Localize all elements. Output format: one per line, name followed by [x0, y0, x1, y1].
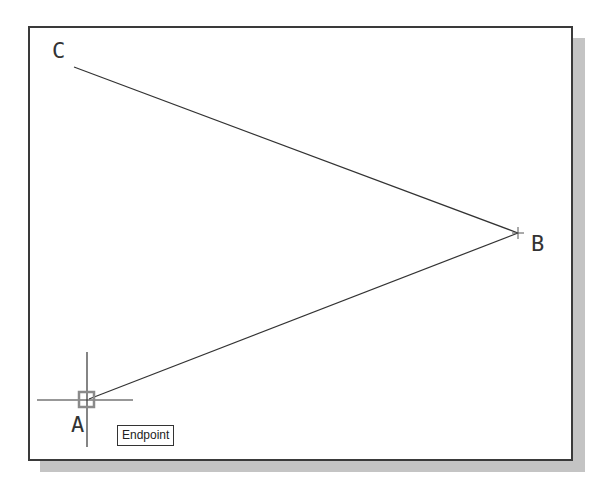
point-label-a: A [71, 414, 84, 436]
line-b-a[interactable] [89, 233, 518, 399]
snap-tooltip: Endpoint [117, 425, 174, 446]
line-c-b[interactable] [74, 67, 518, 233]
drawing-canvas[interactable] [0, 0, 602, 496]
point-label-b: B [531, 233, 544, 255]
point-label-c: C [52, 40, 65, 62]
point-b-marker-icon [512, 227, 524, 239]
